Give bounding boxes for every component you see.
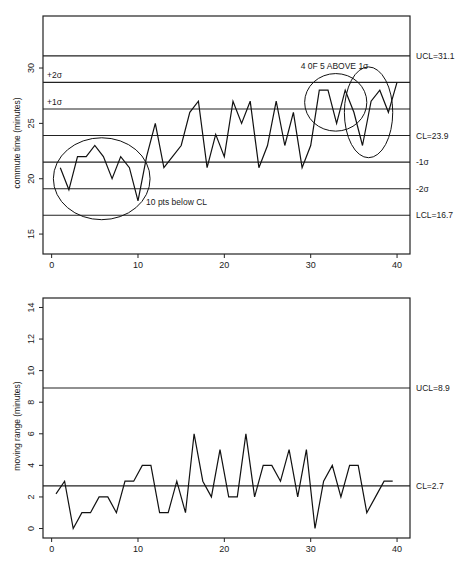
- y-tick-label: 20: [26, 174, 36, 184]
- moving-range-chart: 02468101214010203040moving range (minute…: [12, 298, 450, 554]
- plot-frame: [43, 298, 410, 538]
- x-tick-label: 0: [49, 260, 54, 270]
- y-tick-label: 25: [26, 118, 36, 128]
- control-line-label: CL=2.7: [416, 481, 444, 491]
- plot-frame: [43, 16, 410, 254]
- x-tick-label: 40: [392, 544, 402, 554]
- y-tick-label: 8: [26, 400, 36, 405]
- x-tick-label: 30: [306, 260, 316, 270]
- x-tick-label: 10: [133, 260, 143, 270]
- y-tick-label: 10: [26, 366, 36, 376]
- y-tick-label: 15: [26, 229, 36, 239]
- y-tick-label: 6: [26, 431, 36, 436]
- y-tick-label: 14: [26, 302, 36, 312]
- data-series: [60, 82, 397, 200]
- data-series: [56, 434, 393, 529]
- annotation-label: 10 pts below CL: [146, 197, 207, 207]
- control-line-label: +1σ: [47, 97, 63, 107]
- y-axis-label: commute time (minutes): [12, 97, 22, 188]
- x-tick-label: 20: [219, 260, 229, 270]
- control-line-label: UCL=8.9: [416, 383, 450, 393]
- control-line-label: -1σ: [416, 157, 430, 167]
- x-tick-label: 30: [306, 544, 316, 554]
- control-line-label: -2σ: [416, 184, 430, 194]
- x-tick-label: 0: [49, 544, 54, 554]
- annotation-ellipse: [53, 138, 150, 220]
- x-tick-label: 40: [392, 260, 402, 270]
- control-line-label: +2σ: [47, 70, 63, 80]
- x-tick-label: 20: [219, 544, 229, 554]
- y-axis-label: moving range (minutes): [12, 381, 22, 470]
- y-tick-label: 2: [26, 494, 36, 499]
- x-tick-label: 10: [133, 544, 143, 554]
- individuals-chart: 15202530010203040commute time (minutes)U…: [12, 16, 455, 270]
- control-line-label: LCL=16.7: [416, 210, 453, 220]
- control-charts: 15202530010203040commute time (minutes)U…: [0, 0, 464, 570]
- y-tick-label: 0: [26, 526, 36, 531]
- y-tick-label: 30: [26, 63, 36, 73]
- control-line-label: UCL=31.1: [416, 51, 455, 61]
- annotation-label: 4 0F 5 ABOVE 1σ: [301, 61, 369, 71]
- control-line-label: CL=23.9: [416, 131, 449, 141]
- y-tick-label: 12: [26, 334, 36, 344]
- y-tick-label: 4: [26, 463, 36, 468]
